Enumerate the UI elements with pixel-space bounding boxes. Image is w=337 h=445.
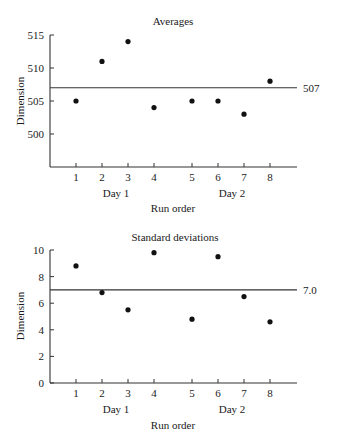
chart1-x-tick-label: 2 xyxy=(99,171,105,183)
chart1-data-point xyxy=(241,112,246,117)
chart1-y-tick-label: 500 xyxy=(28,128,45,140)
chart2-x-tick-label: 8 xyxy=(267,387,273,399)
chart2-group-label: Day 1 xyxy=(103,403,130,415)
chart1-x-tick-label: 3 xyxy=(125,171,131,183)
chart2-data-point xyxy=(125,307,130,312)
chart1-y-tick-label: 510 xyxy=(28,62,45,74)
chart1-x-axis-label: Run order xyxy=(151,202,196,214)
chart2-y-tick-label: 8 xyxy=(39,271,45,283)
chart2-y-axis-label: Dimension xyxy=(14,291,26,340)
chart1-y-tick-label: 515 xyxy=(28,29,45,41)
chart2-y-tick-label: 4 xyxy=(39,324,45,336)
chart2-data-point xyxy=(267,319,272,324)
chart2-reference-line-label: 7.0 xyxy=(303,284,317,296)
chart2-y-tick-label: 10 xyxy=(33,244,45,256)
chart1-data-point xyxy=(189,98,194,103)
chart1-data-point xyxy=(151,105,156,110)
chart1-data-point xyxy=(99,59,104,64)
chart2-x-tick-label: 3 xyxy=(125,387,131,399)
chart2-x-tick-label: 4 xyxy=(151,387,157,399)
chart1-x-tick-label: 7 xyxy=(241,171,247,183)
chart2-y-tick-label: 2 xyxy=(39,350,45,362)
chart-canvas: Averages50050551051512345678Day 1Day 2Ru… xyxy=(0,0,337,445)
chart2-x-tick-label: 1 xyxy=(73,387,79,399)
chart2-y-tick-label: 6 xyxy=(39,297,45,309)
chart2-data-point xyxy=(189,317,194,322)
chart2-x-tick-label: 7 xyxy=(241,387,247,399)
chart1-x-tick-label: 4 xyxy=(151,171,157,183)
chart2-data-point xyxy=(99,290,104,295)
chart1-group-label: Day 1 xyxy=(103,187,130,199)
chart1-x-tick-label: 6 xyxy=(215,171,221,183)
chart1-group-label: Day 2 xyxy=(219,187,246,199)
chart1-y-tick-label: 505 xyxy=(28,95,45,107)
chart1-x-tick-label: 1 xyxy=(73,171,79,183)
chart2-y-tick-label: 0 xyxy=(39,377,45,389)
chart2-data-point xyxy=(151,250,156,255)
chart2-x-tick-label: 2 xyxy=(99,387,105,399)
chart2-group-label: Day 2 xyxy=(219,403,246,415)
chart1-reference-line-label: 507 xyxy=(303,82,320,94)
chart2-title: Standard deviations xyxy=(131,231,218,243)
chart2-x-tick-label: 5 xyxy=(189,387,195,399)
chart1-data-point xyxy=(125,39,130,44)
chart2-data-point xyxy=(215,254,220,259)
chart1-x-tick-label: 8 xyxy=(267,171,273,183)
chart1-title: Averages xyxy=(153,15,194,27)
chart2-x-tick-label: 6 xyxy=(215,387,221,399)
chart2-data-point xyxy=(241,294,246,299)
chart1-data-point xyxy=(215,98,220,103)
chart2-x-axis-label: Run order xyxy=(151,419,196,431)
chart2-data-point xyxy=(73,263,78,268)
chart1-x-tick-label: 5 xyxy=(189,171,195,183)
chart1-y-axis-label: Dimension xyxy=(14,76,26,125)
chart1-data-point xyxy=(267,79,272,84)
chart1-data-point xyxy=(73,98,78,103)
